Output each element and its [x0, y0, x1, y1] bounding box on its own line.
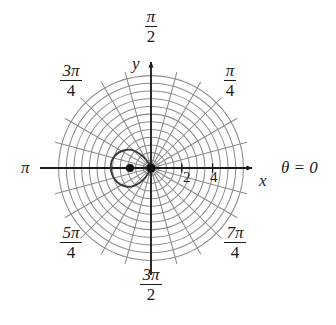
angle-label-3pi-over-2: 3π 2 [128, 266, 174, 304]
angle-label-3pi-over-4-denominator: 4 [60, 81, 81, 99]
angle-label-3pi-over-2-denominator: 2 [140, 285, 161, 303]
angle-label-7pi-over-4-denominator: 4 [224, 243, 245, 261]
theta-zero-label: θ = 0 [281, 159, 318, 176]
angle-label-pi-over-4-numerator: π [224, 62, 237, 81]
angle-label-5pi-over-4-numerator: 5π [60, 224, 81, 243]
angle-label-7pi-over-4: 7π 4 [212, 224, 258, 262]
radial-tick-label-4: 4 [210, 170, 218, 185]
angle-label-pi-over-4-denominator: 4 [224, 81, 237, 99]
interior-point-marker [126, 164, 134, 172]
angle-label-3pi-over-2-numerator: 3π [140, 266, 161, 285]
angle-label-3pi-over-4: 3π 4 [48, 62, 94, 100]
angle-label-5pi-over-4: 5π 4 [48, 224, 94, 262]
angle-label-pi-over-4: π 4 [212, 62, 248, 100]
x-axis-label: x [259, 172, 267, 189]
angle-label-3pi-over-4-numerator: 3π [60, 62, 81, 81]
angle-label-pi-over-2-denominator: 2 [145, 27, 158, 45]
pole-point-marker [146, 163, 155, 172]
angle-label-pi-over-2-numerator: π [145, 8, 158, 27]
angle-label-pi-over-2: π 2 [133, 8, 169, 46]
radial-tick-label-2: 2 [183, 170, 191, 185]
y-axis-label: y [132, 55, 140, 72]
polar-diagram: π 2 3π 4 π 4 π 5π 4 7π 4 3π [0, 0, 336, 325]
angle-label-pi: π [21, 159, 30, 176]
angle-label-5pi-over-4-denominator: 4 [60, 243, 81, 261]
angle-label-7pi-over-4-numerator: 7π [224, 224, 245, 243]
